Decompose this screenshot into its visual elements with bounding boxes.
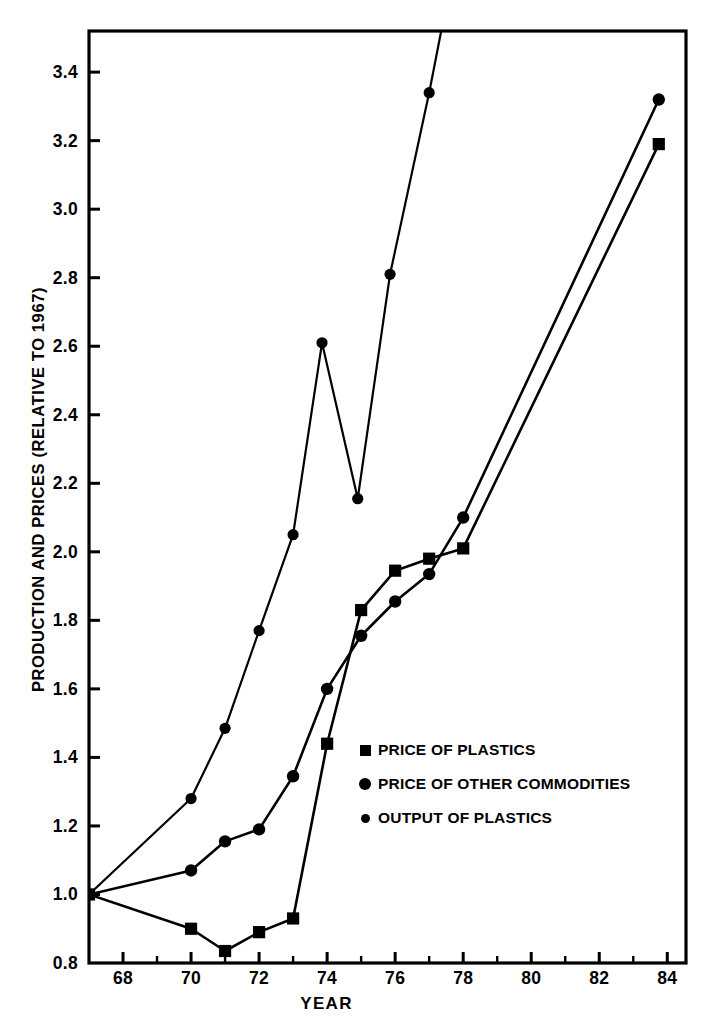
data-point-marker	[423, 553, 435, 565]
data-point-marker	[287, 770, 299, 782]
square-marker-icon	[352, 745, 378, 756]
x-tick-label: 70	[161, 968, 221, 989]
data-point-marker	[321, 683, 333, 695]
data-point-marker	[185, 793, 196, 804]
y-tick-label: 2.0	[18, 541, 78, 562]
legend-item: PRICE OF PLASTICS	[352, 733, 630, 767]
plot-area	[0, 0, 713, 1023]
y-tick-label: 2.2	[18, 473, 78, 494]
data-point-marker	[653, 93, 665, 105]
y-tick-label: 3.0	[18, 199, 78, 220]
data-point-marker	[384, 269, 395, 280]
legend-item: PRICE OF OTHER COMMODITIES	[352, 767, 630, 801]
x-tick-label: 74	[297, 968, 357, 989]
x-tick-label: 68	[93, 968, 153, 989]
circle-large-marker-icon	[352, 778, 378, 790]
data-point-marker	[352, 493, 363, 504]
y-tick-label: 1.8	[18, 610, 78, 631]
data-point-marker	[321, 738, 333, 750]
y-tick-label: 2.8	[18, 267, 78, 288]
x-tick-label: 80	[501, 968, 561, 989]
y-tick-label: 1.4	[18, 747, 78, 768]
data-point-marker	[355, 604, 367, 616]
data-point-marker	[287, 912, 299, 924]
legend-label: OUTPUT OF PLASTICS	[378, 809, 552, 827]
data-point-marker	[219, 945, 231, 957]
y-tick-label: 3.4	[18, 62, 78, 83]
data-point-marker	[253, 625, 264, 636]
data-point-marker	[653, 138, 665, 150]
data-point-marker	[288, 529, 299, 540]
data-point-marker	[389, 595, 401, 607]
x-tick-label: 78	[433, 968, 493, 989]
data-point-marker	[355, 630, 367, 642]
legend-label: PRICE OF OTHER COMMODITIES	[378, 775, 630, 793]
data-point-marker	[253, 926, 265, 938]
data-point-marker	[185, 923, 197, 935]
data-point-marker	[457, 511, 469, 523]
x-tick-label: 76	[365, 968, 425, 989]
data-point-marker	[316, 337, 327, 348]
data-point-marker	[219, 835, 231, 847]
y-tick-label: 1.2	[18, 815, 78, 836]
legend-label: PRICE OF PLASTICS	[378, 741, 536, 759]
y-axis-title: PRODUCTION AND PRICES (RELATIVE TO 1967)	[29, 190, 48, 790]
data-point-marker	[219, 723, 230, 734]
data-point-marker	[185, 864, 197, 876]
data-point-marker	[389, 565, 401, 577]
x-tick-label: 82	[569, 968, 629, 989]
y-tick-label: 2.6	[18, 336, 78, 357]
data-point-marker	[83, 889, 94, 900]
data-point-marker	[424, 87, 435, 98]
chart-figure: 0.81.01.21.41.61.82.02.22.42.62.83.03.23…	[0, 0, 713, 1023]
y-tick-label: 1.6	[18, 678, 78, 699]
y-tick-label: 3.2	[18, 130, 78, 151]
x-tick-label: 84	[637, 968, 697, 989]
legend: PRICE OF PLASTICS PRICE OF OTHER COMMODI…	[352, 733, 630, 835]
x-axis-title: YEAR	[0, 994, 713, 1014]
x-tick-label: 72	[229, 968, 289, 989]
y-tick-label: 1.0	[18, 884, 78, 905]
legend-item: OUTPUT OF PLASTICS	[352, 801, 630, 835]
data-point-marker	[423, 568, 435, 580]
data-point-marker	[457, 542, 469, 554]
y-tick-label: 2.4	[18, 404, 78, 425]
data-point-marker	[253, 823, 265, 835]
circle-small-marker-icon	[352, 814, 378, 823]
